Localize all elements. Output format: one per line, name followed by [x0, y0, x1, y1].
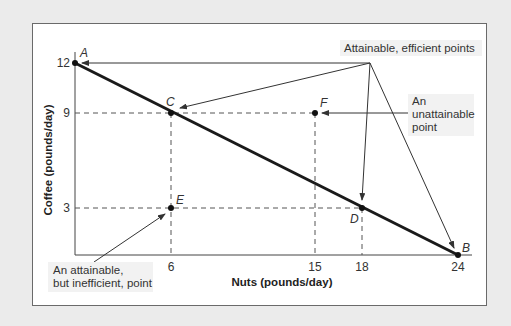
- ppf-chart: A B C D E F 12 9 3 6 15 18 24 Nuts (poun…: [0, 0, 511, 326]
- annotation-efficient: Attainable, efficient points: [344, 42, 475, 54]
- point-label-d: D: [350, 212, 359, 226]
- ppf-line: [75, 63, 458, 255]
- point-a: [72, 60, 78, 66]
- point-b: [455, 252, 461, 258]
- point-label-e: E: [176, 193, 185, 207]
- point-d: [359, 205, 365, 211]
- y-tick-9: 9: [63, 106, 70, 120]
- x-tick-24: 24: [451, 260, 465, 274]
- y-tick-12: 12: [57, 56, 71, 70]
- point-label-b: B: [462, 241, 470, 255]
- y-tick-3: 3: [63, 201, 70, 215]
- x-tick-6: 6: [168, 260, 175, 274]
- point-label-a: A: [79, 46, 88, 60]
- x-tick-15: 15: [308, 260, 322, 274]
- x-tick-18: 18: [355, 260, 369, 274]
- x-axis-title: Nuts (pounds/day): [232, 276, 333, 288]
- point-label-c: C: [166, 95, 175, 109]
- point-label-f: F: [320, 96, 328, 110]
- y-axis-title: Coffee (pounds/day): [42, 104, 54, 215]
- point-c: [168, 110, 174, 116]
- point-f: [312, 110, 318, 116]
- point-e: [168, 205, 174, 211]
